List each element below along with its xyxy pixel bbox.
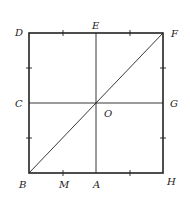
- label-E: E: [91, 20, 100, 31]
- label-D: D: [14, 27, 23, 38]
- label-C: C: [15, 98, 23, 109]
- geometry-diagram: D E F C O G B M A H: [0, 0, 190, 203]
- label-B: B: [18, 179, 26, 190]
- label-O: O: [104, 108, 112, 119]
- label-M: M: [58, 179, 70, 190]
- label-H: H: [166, 176, 176, 187]
- label-G: G: [170, 98, 178, 109]
- label-A: A: [92, 179, 100, 190]
- label-F: F: [170, 28, 179, 39]
